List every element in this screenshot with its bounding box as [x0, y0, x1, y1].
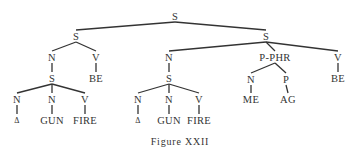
tree-node-rns: S: [166, 73, 172, 84]
tree-edge: [169, 42, 266, 51]
tree-node-me: ME: [243, 94, 259, 105]
tree-node-ln: N: [48, 52, 56, 63]
tree-node-rn: N: [165, 52, 173, 63]
figure-caption: Figure XXII: [151, 136, 210, 147]
tree-edge: [169, 84, 199, 93]
tree-node-rs: S: [263, 31, 269, 42]
tree-node-rfire: FIRE: [187, 115, 211, 126]
tree-node-ln1: N: [13, 94, 21, 105]
tree-node-root: S: [172, 11, 178, 22]
tree-edge: [76, 22, 175, 30]
tree-edge: [52, 42, 76, 51]
tree-edge: [175, 22, 266, 30]
tree-node-ln2: N: [48, 94, 56, 105]
tree-node-ppp: P: [283, 74, 289, 85]
tree-edge: [275, 63, 286, 73]
tree-node-ls: S: [73, 31, 79, 42]
tree-edge: [138, 84, 169, 93]
tree-node-ag: AG: [280, 94, 296, 105]
tree-edge: [17, 84, 52, 93]
tree-node-lns: S: [49, 73, 55, 84]
tree-node-rn1: N: [134, 94, 142, 105]
tree-node-rgun: GUN: [157, 115, 181, 126]
tree-edge: [266, 42, 338, 51]
tree-edge: [251, 63, 275, 73]
tree-node-lv2: V: [81, 94, 89, 105]
tree-edge: [76, 42, 96, 51]
tree-node-ld: Δ: [14, 116, 19, 125]
tree-node-rv2: V: [195, 94, 203, 105]
tree-node-ppn: N: [247, 74, 255, 85]
tree-node-rpp: P-PHR: [259, 52, 290, 63]
tree-node-rv: V: [334, 52, 342, 63]
tree-node-rd: Δ: [135, 116, 140, 125]
tree-edge: [52, 84, 85, 93]
tree-node-rbe: BE: [331, 73, 345, 84]
tree-node-rn2: N: [165, 94, 173, 105]
tree-node-lbe: BE: [89, 73, 103, 84]
tree-edge: [286, 85, 288, 93]
tree-node-lgun: GUN: [40, 115, 64, 126]
tree-node-lfire: FIRE: [73, 115, 97, 126]
tree-node-lv: V: [92, 52, 100, 63]
